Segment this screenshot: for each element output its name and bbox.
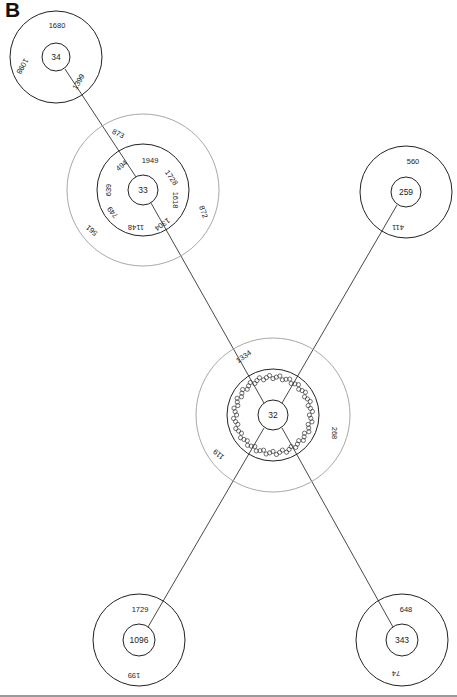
edge-259-32 — [282, 205, 397, 403]
edge-32-1096 — [148, 428, 264, 627]
node-33: 3387349419491728161813041148749639872561 — [67, 114, 219, 266]
node-259: 259560411 — [360, 146, 452, 238]
ring-count-label: 494 — [114, 158, 129, 173]
ring-count-label: 561 — [84, 223, 99, 238]
node-1096: 10961729199 — [93, 594, 185, 686]
ring-count-label: 119 — [211, 447, 226, 462]
network-diagram: 3416801098139933873494194917281618130411… — [0, 0, 457, 697]
node-34: 34168010981399 — [10, 11, 102, 103]
ring-count-label: 1334 — [234, 348, 253, 365]
node-center-label: 33 — [138, 185, 148, 195]
ring-count-label: 1098 — [14, 57, 30, 76]
ring-count-label: 1304 — [153, 216, 172, 233]
ring-count-label: 1680 — [49, 21, 66, 30]
edges-layer — [65, 69, 397, 627]
node-center-label: 34 — [51, 52, 61, 62]
ring-count-label: 1728 — [163, 168, 180, 187]
ring-count-label: 749 — [105, 205, 120, 220]
ring-count-label: 1949 — [142, 156, 159, 165]
ring-count-label: 648 — [400, 605, 413, 614]
node-32: 321334268119 — [196, 338, 350, 492]
node-center-label: 32 — [268, 410, 278, 420]
ring-count-label: 74 — [392, 669, 400, 678]
ring-count-label: 1399 — [70, 72, 86, 91]
edge-33-32 — [151, 203, 264, 403]
ring-count-label: 268 — [330, 427, 339, 440]
nodes-layer: 3416801098139933873494194917281618130411… — [10, 11, 452, 686]
node-center-label: 1096 — [130, 635, 149, 645]
ring-count-label: 199 — [128, 671, 141, 680]
ring-count-label: 1729 — [132, 605, 149, 614]
ring-count-label: 873 — [111, 127, 126, 140]
ring-count-label: 872 — [197, 204, 210, 219]
ring-count-label: 560 — [407, 157, 420, 166]
ring-count-label: 1618 — [171, 192, 180, 209]
node-center-label: 343 — [395, 635, 409, 645]
node-343: 34364874 — [356, 594, 448, 686]
ring-count-label: 1148 — [128, 223, 144, 232]
ring-count-label: 639 — [104, 184, 113, 197]
node-center-label: 259 — [399, 187, 413, 197]
ring-count-label: 411 — [392, 223, 404, 232]
